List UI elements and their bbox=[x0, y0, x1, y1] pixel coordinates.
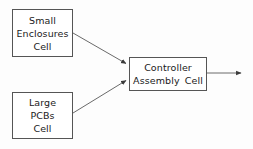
node-small-enclosures-cell: Small Enclosures Cell bbox=[12, 9, 73, 57]
edge-small-enclosures-to-controller bbox=[73, 33, 126, 64]
node-label-line: Enclosures bbox=[16, 27, 68, 40]
node-label-line: PCBs bbox=[30, 109, 54, 122]
flow-diagram: Small Enclosures Cell Large PCBs Cell Co… bbox=[0, 0, 253, 149]
node-controller-assembly-cell: Controller Assembly Cell bbox=[129, 57, 207, 91]
node-label-line: Small bbox=[29, 14, 56, 27]
node-label-line: Large bbox=[29, 96, 56, 109]
node-label-line: Assembly Cell bbox=[133, 74, 203, 87]
node-label-line: Cell bbox=[33, 40, 51, 53]
node-label-line: Controller bbox=[144, 61, 192, 74]
edge-large-pcbs-to-controller bbox=[73, 81, 126, 114]
node-large-pcbs-cell: Large PCBs Cell bbox=[12, 92, 73, 139]
node-label-line: Cell bbox=[33, 122, 51, 135]
